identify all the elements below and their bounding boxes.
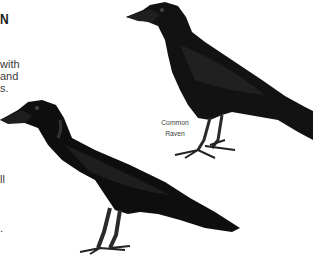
common-raven-label: Common Raven xyxy=(158,117,192,139)
crow-illustration xyxy=(0,0,313,256)
label-line: Raven xyxy=(158,128,192,139)
label-line: Common xyxy=(158,117,192,128)
